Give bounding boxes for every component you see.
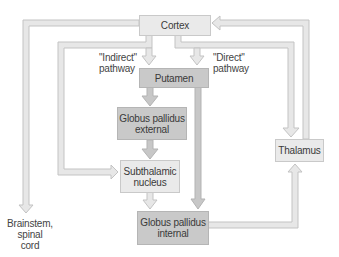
direct-pathway-arrow [190, 48, 204, 65]
direct-label-line1: "Direct" [213, 52, 249, 63]
globus-pallidus-external-node: Globus pallidus external [117, 107, 187, 140]
indirect-label-line2: pathway [99, 63, 137, 74]
brainstem-label-line2: spinal cord [7, 229, 53, 251]
gpe-label-line1: Globus pallidus [119, 113, 184, 124]
gpi-to-thalamus-arrow [208, 164, 302, 228]
thalamus-node: Thalamus [275, 139, 324, 162]
indirect-label-line1: "Indirect" [99, 52, 137, 63]
stn-label-line1: Subthalamic [124, 166, 177, 177]
gpi-label-line2: internal [157, 228, 188, 239]
subthalamic-nucleus-node: Subthalamic nucleus [120, 160, 180, 193]
direct-label-line2: pathway [213, 63, 249, 74]
indirect-pathway-arrow [142, 48, 156, 65]
putamen-label: Putamen [155, 73, 194, 84]
gpe-label-line2: external [135, 124, 169, 135]
thalamus-label: Thalamus [278, 145, 320, 156]
putamen-to-gpi-arrow [191, 87, 205, 209]
putamen-node: Putamen [139, 68, 209, 88]
brainstem-label-line1: Brainstem, [7, 218, 53, 229]
direct-pathway-label: "Direct" pathway [213, 52, 249, 74]
globus-pallidus-internal-node: Globus pallidus internal [137, 211, 209, 245]
subthalamic-to-gpi-arrow [143, 192, 157, 209]
brainstem-spinal-cord-label: Brainstem, spinal cord [7, 218, 53, 251]
cortex-label: Cortex [161, 20, 189, 31]
cortex-node: Cortex [139, 15, 211, 36]
indirect-pathway-label: "Indirect" pathway [99, 52, 137, 74]
stn-label-line2: nucleus [133, 177, 166, 188]
gpe-to-subthalamic-arrow [142, 140, 158, 159]
gpi-label-line1: Globus pallidus [140, 217, 205, 228]
putamen-to-gpe-arrow [142, 87, 158, 106]
